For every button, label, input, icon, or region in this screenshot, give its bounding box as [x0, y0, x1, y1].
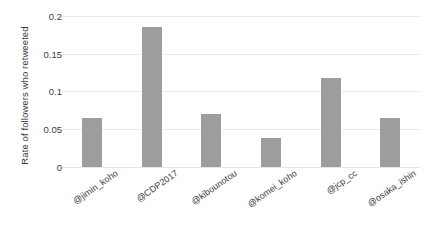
- bar: [142, 27, 162, 166]
- bar: [261, 138, 281, 167]
- y-axis-tick-label: 0.15: [18, 48, 62, 59]
- x-axis-tick-label: @osaka_ishin: [366, 168, 418, 209]
- bar: [82, 118, 102, 167]
- y-axis-tick-label: 0.05: [18, 123, 62, 134]
- x-axis-tick-labels: @jimin_koho@CDP2017@kibounotou@komei_koh…: [62, 168, 420, 240]
- bar-chart-figure: Rate of followers who retweeted 00.050.1…: [0, 0, 430, 240]
- bar: [201, 114, 221, 167]
- y-axis-tick-label: 0.1: [18, 86, 62, 97]
- y-axis-tick-labels: 00.050.10.150.2: [14, 0, 62, 240]
- x-axis-tick-label: @komei_koho: [246, 168, 299, 209]
- bar: [321, 78, 341, 166]
- bar: [380, 118, 400, 167]
- x-axis-tick-label: @CDP2017: [134, 168, 179, 204]
- y-axis-tick-label: 0: [18, 161, 62, 172]
- plot-area: [62, 16, 420, 167]
- x-axis-tick-label: @jimin_koho: [71, 168, 119, 206]
- y-axis-tick-label: 0.2: [18, 11, 62, 22]
- x-axis-tick-label: @kibounotou: [190, 168, 239, 207]
- x-axis-tick-label: @jcp_cc: [324, 168, 358, 196]
- bar-series: [62, 16, 420, 167]
